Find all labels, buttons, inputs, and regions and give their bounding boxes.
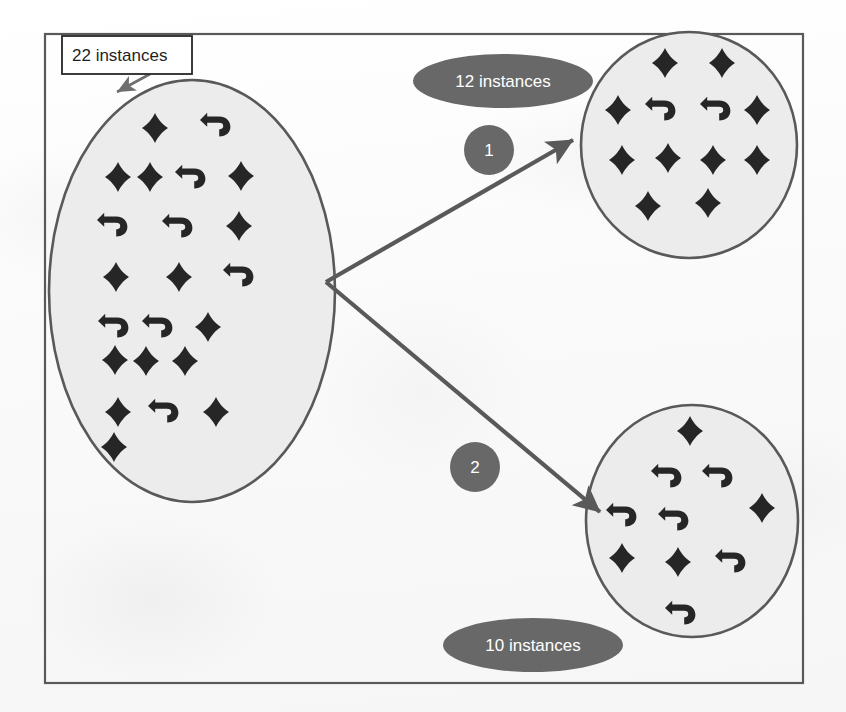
pill-12[interactable]: 12 instances	[413, 54, 593, 108]
badge-1[interactable]: 1	[464, 125, 514, 175]
pill-10[interactable]: 10 instances	[443, 618, 623, 672]
cluster-ellipse-cluster-1[interactable]	[581, 32, 797, 258]
pill-10-label: 10 instances	[485, 636, 580, 655]
badge-2-label: 2	[470, 458, 479, 477]
callout-pointer	[117, 74, 150, 92]
split-diagram: 12 instances10 instances 12 22 instances	[0, 0, 846, 712]
callout-label: 22 instances	[72, 46, 167, 65]
diagram-canvas: 12 instances10 instances 12 22 instances	[0, 0, 846, 712]
arrow-branch-1	[326, 140, 573, 282]
badge-1-label: 1	[484, 141, 493, 160]
cluster-ellipse-source-cluster[interactable]	[49, 80, 335, 502]
pill-12-label: 12 instances	[455, 72, 550, 91]
badge-2[interactable]: 2	[450, 442, 500, 492]
